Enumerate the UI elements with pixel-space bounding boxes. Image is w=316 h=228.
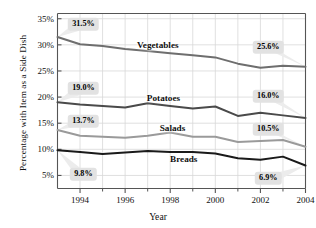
series-label-potatoes: Potatoes <box>147 93 180 103</box>
callout-vegetables-end: 25.6% <box>253 41 284 54</box>
x-tick-label: 2002 <box>251 195 269 205</box>
callout-breads-start: 9.8% <box>70 168 96 181</box>
x-tick-label: 2004 <box>297 195 315 205</box>
callout-salads-end: 10.5% <box>253 123 284 136</box>
callout-potatoes-end: 16.0% <box>253 90 284 103</box>
callout-vegetables-start: 31.5% <box>68 18 99 31</box>
x-axis-tick-labels: 199419961998200020022004VegetablesPotato… <box>0 0 316 228</box>
x-tick-label: 1998 <box>161 195 179 205</box>
series-label-salads: Salads <box>160 123 186 133</box>
callout-breads-end: 6.9% <box>255 172 281 185</box>
series-label-vegetables: Vegetables <box>137 40 179 50</box>
x-tick-label: 1996 <box>116 195 134 205</box>
x-tick-label: 2000 <box>206 195 224 205</box>
callout-salads-start: 13.7% <box>68 115 99 128</box>
line-chart: Percentage with Item as a Side Dish 5%10… <box>0 0 316 228</box>
series-label-breads: Breads <box>170 154 197 164</box>
callout-potatoes-start: 19.0% <box>68 82 99 95</box>
x-axis-title: Year <box>0 211 316 222</box>
x-tick-label: 1994 <box>71 195 89 205</box>
